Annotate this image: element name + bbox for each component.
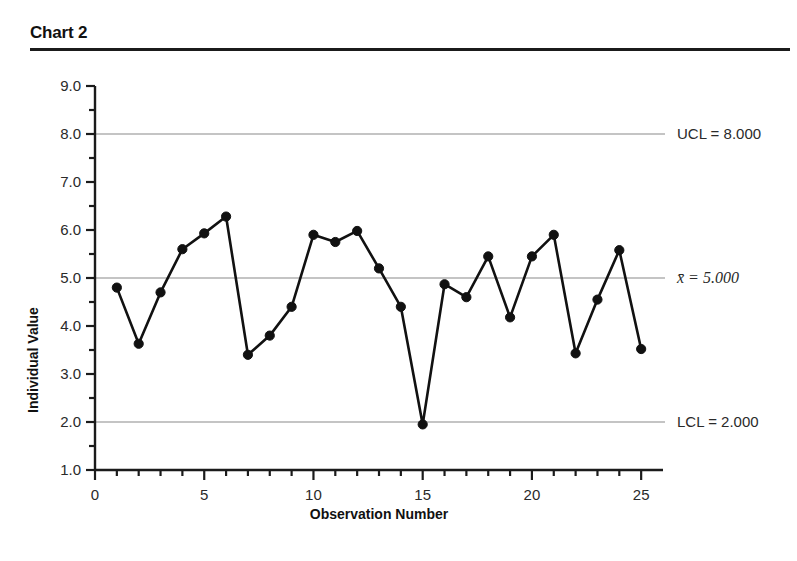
data-point-markers	[112, 212, 646, 429]
data-point	[309, 230, 318, 239]
x-tick-label: 15	[414, 486, 431, 503]
data-point	[615, 246, 624, 255]
data-point	[112, 283, 121, 292]
y-tick-label: 3.0	[60, 365, 81, 382]
data-point	[571, 349, 580, 358]
data-point	[505, 313, 514, 322]
data-point	[593, 295, 602, 304]
y-tick-label: 1.0	[60, 461, 81, 478]
limit-label-ucl: UCL = 8.000	[677, 125, 761, 142]
y-axis-title: Individual Value	[25, 307, 41, 413]
data-point	[200, 229, 209, 238]
x-tick-label: 25	[633, 486, 650, 503]
data-point	[527, 252, 536, 261]
x-tick-label: 10	[305, 486, 322, 503]
data-point	[637, 344, 646, 353]
title-divider	[30, 48, 790, 51]
data-series-line	[117, 217, 641, 425]
y-tick-label: 6.0	[60, 221, 81, 238]
y-tick-label: 8.0	[60, 125, 81, 142]
y-axis: 1.02.03.04.05.06.07.08.09.0	[60, 77, 95, 478]
control-limit-lines	[95, 134, 665, 422]
data-point	[353, 226, 362, 235]
y-tick-label: 9.0	[60, 77, 81, 94]
data-point	[440, 280, 449, 289]
y-tick-label: 2.0	[60, 413, 81, 430]
page-title: Chart 2	[30, 22, 790, 44]
data-point	[287, 302, 296, 311]
data-point	[134, 339, 143, 348]
limit-label-cl: x̄ = 5.000	[676, 269, 739, 286]
data-point	[396, 302, 405, 311]
control-chart: 1.02.03.04.05.06.07.08.09.0 0510152025 U…	[0, 70, 797, 540]
x-axis-title: Observation Number	[310, 506, 449, 522]
y-tick-label: 5.0	[60, 269, 81, 286]
x-tick-label: 0	[91, 486, 99, 503]
x-tick-label: 5	[200, 486, 208, 503]
data-point	[549, 230, 558, 239]
x-axis: 0510152025	[91, 470, 663, 503]
y-tick-label: 7.0	[60, 173, 81, 190]
data-point	[178, 245, 187, 254]
series-line	[117, 217, 641, 425]
data-point	[484, 252, 493, 261]
data-point	[243, 350, 252, 359]
data-point	[331, 237, 340, 246]
control-limit-labels: UCL = 8.000x̄ = 5.000LCL = 2.000	[676, 125, 761, 430]
data-point	[374, 264, 383, 273]
data-point	[462, 293, 471, 302]
data-point	[265, 331, 274, 340]
y-tick-label: 4.0	[60, 317, 81, 334]
x-tick-label: 20	[524, 486, 541, 503]
chart-header: Chart 2	[30, 22, 790, 51]
data-point	[156, 288, 165, 297]
limit-label-lcl: LCL = 2.000	[677, 413, 759, 430]
data-point	[418, 420, 427, 429]
data-point	[221, 212, 230, 221]
chart-canvas: 1.02.03.04.05.06.07.08.09.0 0510152025 U…	[0, 70, 797, 540]
